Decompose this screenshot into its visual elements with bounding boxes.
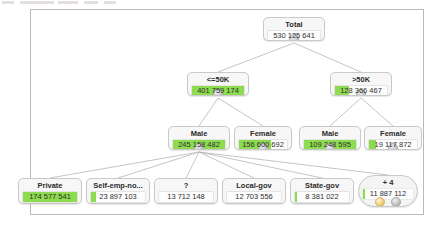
tree-node-value-bar: 128 366 467 [334,85,388,96]
tree-node-value: 128 366 467 [335,86,387,96]
tree-node-value-bar: 530 125 641 [267,30,321,41]
tree-node-value: 401 759 174 [192,86,244,96]
toolbar-tick [84,1,98,4]
tree-node-value-bar: 245 158 482 [172,139,226,150]
tree-node-value-bar: 13 712 148 [158,191,214,203]
tree-node-lte50k-male[interactable]: Male245 158 482 [168,126,230,150]
tree-node-gt50k-male[interactable]: Male109 248 595 [299,126,361,150]
decision-tree-screen: Total530 125 641<=50K401 759 174>50K128 … [0,0,428,227]
tree-node-value: 11 887 112 [363,189,413,199]
tree-node-value: 8 381 022 [295,192,349,202]
tree-node-value: 245 158 482 [173,140,225,150]
tree-node-value: 12 703 556 [227,192,281,202]
tree-node-title: Female [235,129,291,138]
tree-node-value-bar: 401 759 174 [191,85,245,96]
tree-node-lte50k-female[interactable]: Female156 600 692 [234,126,292,150]
toolbar-tick [2,1,14,4]
tree-node-title: State-gov [291,181,353,190]
tree-node-title: <=50K [188,75,248,84]
tree-node-value-bar: 156 600 692 [238,139,288,150]
tree-node-title: Total [264,20,324,29]
tree-node-value-bar: 174 577 541 [22,191,78,203]
tree-node-value-bar: 11 887 112 [362,188,414,200]
tree-node-value: 19 117 872 [369,140,417,150]
toolbar-tick [104,1,116,4]
tree-node-value: 156 600 692 [239,140,287,150]
toolbar-tick [58,1,78,4]
tree-node-title: + 4 [359,178,417,187]
tree-node-title: Male [300,129,360,138]
tree-node-state-gov[interactable]: State-gov8 381 022 [290,178,354,204]
tree-node-title: >50K [331,75,391,84]
tree-node-plus-4[interactable]: + 411 887 112 [358,175,418,207]
tree-node-title: Local-gov [223,181,285,190]
tree-node-lte50k[interactable]: <=50K401 759 174 [187,72,249,96]
tree-node-value: 23 897 103 [91,192,145,202]
tree-node-value-bar: 8 381 022 [294,191,350,203]
tree-node-title: Private [19,181,81,190]
tree-node-self-emp-not-inc[interactable]: Self-emp-no...23 897 103 [86,178,150,204]
tree-node-title: ? [155,181,217,190]
tree-node-private[interactable]: Private174 577 541 [18,178,82,204]
clipped-toolbar-strip [0,0,428,7]
tree-node-title: Self-emp-no... [87,181,149,190]
tree-node-value-bar: 23 897 103 [90,191,146,203]
tree-node-value-bar: 12 703 556 [226,191,282,203]
tree-node-value: 13 712 148 [159,192,213,202]
tree-node-value: 174 577 541 [23,192,77,202]
tree-node-value-bar: 109 248 595 [303,139,357,150]
tree-node-value: 109 248 595 [304,140,356,150]
toolbar-tick [20,1,54,4]
tree-node-title: Female [365,129,421,138]
tree-node-unknown[interactable]: ?13 712 148 [154,178,218,204]
tree-node-local-gov[interactable]: Local-gov12 703 556 [222,178,286,204]
tree-node-title: Male [169,129,229,138]
tree-node-gt50k[interactable]: >50K128 366 467 [330,72,392,96]
tree-node-value-bar: 19 117 872 [368,139,418,150]
tree-node-gt50k-female[interactable]: Female19 117 872 [364,126,422,150]
tree-node-total[interactable]: Total530 125 641 [263,17,325,41]
tree-node-value: 530 125 641 [268,31,320,41]
